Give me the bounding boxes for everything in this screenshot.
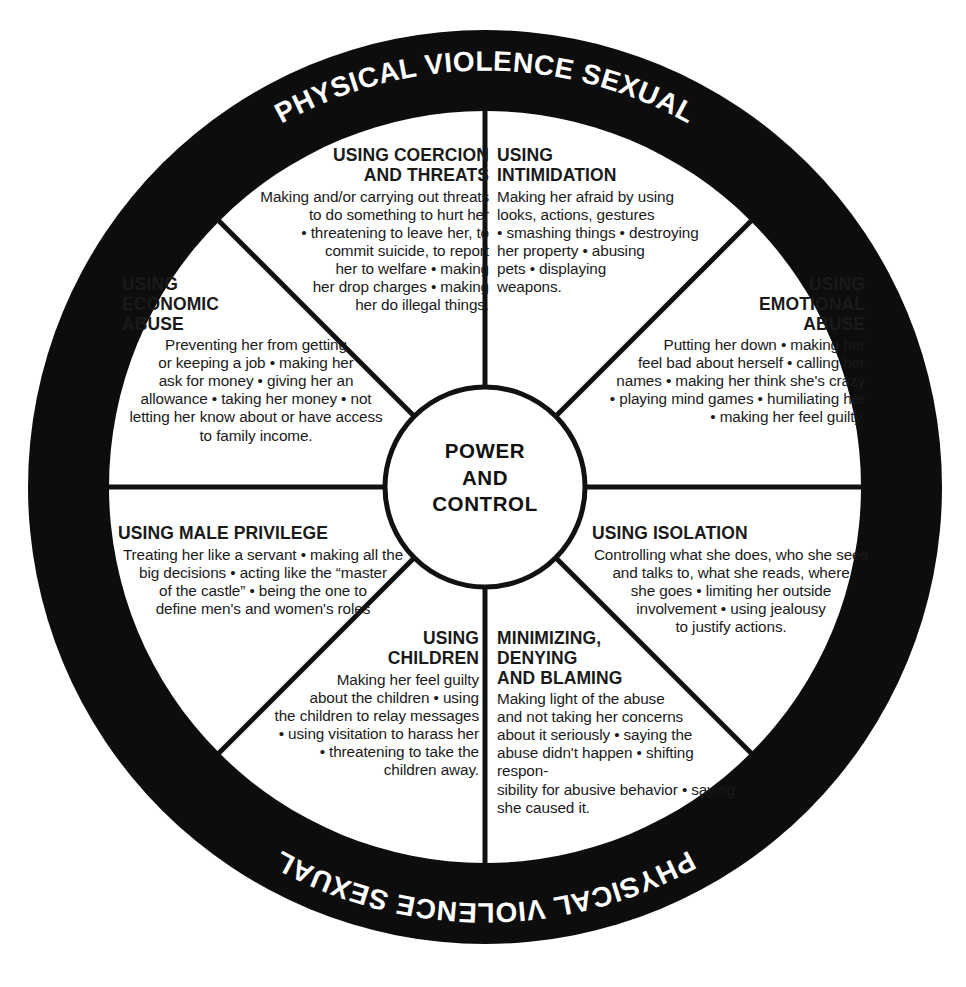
hub-label: POWER AND CONTROL [385, 438, 585, 518]
segment-heading: USINGINTIMIDATION [497, 146, 742, 186]
segment-using-children: USINGCHILDREN Making her feel guiltyabou… [236, 629, 479, 779]
segment-using-isolation: USING ISOLATION Controlling what she doe… [592, 524, 870, 636]
segment-heading: USINGCHILDREN [236, 629, 479, 669]
segment-body: Treating her like a servant • making all… [118, 546, 408, 618]
segment-heading: USINGEMOTIONALABUSE [603, 275, 865, 334]
segment-using-male-privilege: USING MALE PRIVILEGE Treating her like a… [118, 524, 408, 618]
segment-heading: USING ISOLATION [592, 524, 870, 544]
segment-body: Putting her down • making herfeel bad ab… [603, 336, 865, 426]
hub-line-2: AND [385, 465, 585, 492]
segment-minimizing-denying-and-blaming: MINIMIZING,DENYINGAND BLAMING Making lig… [497, 629, 745, 817]
segment-heading: USING MALE PRIVILEGE [118, 524, 408, 544]
segment-using-economic-abuse: USINGECONOMICABUSE Preventing her from g… [122, 275, 390, 445]
segment-body: Controlling what she does, who she seesa… [592, 546, 870, 636]
power-and-control-wheel: PHYSICAL VIOLENCE SEXUAL PHYSICAL VIOLEN… [0, 0, 966, 987]
segment-heading: MINIMIZING,DENYINGAND BLAMING [497, 629, 745, 688]
segment-body: Preventing her from gettingor keeping a … [122, 336, 390, 444]
hub-line-1: POWER [385, 438, 585, 465]
segment-using-intimidation: USINGINTIMIDATION Making her afraid by u… [497, 146, 742, 296]
segment-heading: USINGECONOMICABUSE [122, 275, 390, 334]
segment-body: Making light of the abuseand not taking … [497, 690, 745, 816]
hub-line-3: CONTROL [385, 491, 585, 518]
segment-using-emotional-abuse: USINGEMOTIONALABUSE Putting her down • m… [603, 275, 865, 427]
segment-body: Making her feel guiltyabout the children… [236, 671, 479, 779]
segment-heading: USING COERCIONAND THREATS [237, 146, 489, 186]
